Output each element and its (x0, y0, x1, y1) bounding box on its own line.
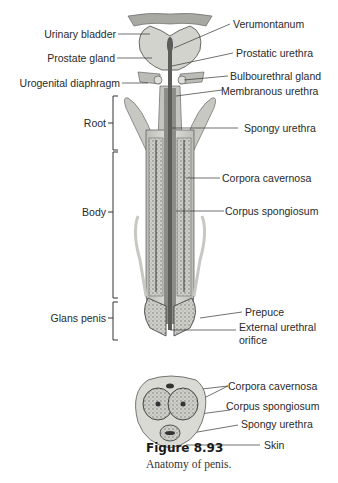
prepuce-shape (135, 216, 146, 296)
root-bracket (108, 96, 118, 150)
label-urinary-bladder: Urinary bladder (44, 28, 116, 40)
longitudinal-section-drawing (124, 13, 215, 336)
label-prepuce: Prepuce (245, 306, 284, 318)
bulbourethral-gland-left (154, 76, 162, 84)
label-cross-spongy-urethra: Spongy urethra (241, 418, 313, 430)
label-prostate-gland: Prostate gland (47, 52, 115, 64)
cross-section-drawing (136, 376, 206, 448)
label-external-urethral-orifice-line1: External urethral (239, 321, 316, 333)
figure-caption: Anatomy of penis. (146, 458, 231, 470)
label-bulbourethral-gland: Bulbourethral gland (230, 70, 321, 82)
label-external-urethral-orifice-line2: orifice (239, 334, 267, 346)
label-region-glans-penis: Glans penis (51, 312, 106, 324)
region-brackets (108, 96, 118, 340)
label-membranous-urethra: Membranous urethra (221, 85, 318, 97)
body-bracket (108, 152, 118, 298)
urinary-bladder-shape (128, 13, 212, 26)
spongy-urethra-section (165, 431, 175, 435)
figure-number: Figure 8.93 (146, 441, 223, 455)
label-cross-corpora-cavernosa: Corpora cavernosa (228, 380, 317, 392)
spongy-urethra-shape (168, 40, 172, 330)
label-region-body: Body (82, 206, 106, 218)
label-cross-skin: Skin (264, 439, 284, 451)
label-prostatic-urethra: Prostatic urethra (236, 47, 313, 59)
label-verumontanum: Verumontanum (233, 18, 304, 30)
label-corpora-cavernosa: Corpora cavernosa (222, 172, 311, 184)
label-urogenital-diaphragm: Urogenital diaphragm (20, 77, 120, 89)
label-corpus-spongiosum: Corpus spongiosum (225, 205, 318, 217)
glans-bracket (108, 302, 118, 340)
label-cross-corpus-spongiosum: Corpus spongiosum (226, 400, 319, 412)
label-region-root: Root (84, 117, 106, 129)
label-spongy-urethra: Spongy urethra (244, 122, 316, 134)
